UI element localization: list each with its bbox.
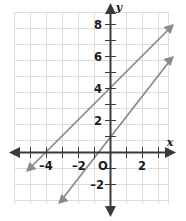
y-axis-arrow-down: [105, 206, 116, 217]
y-tick-label-6: 6: [94, 50, 102, 64]
origin-label: O: [98, 159, 108, 173]
coordinate-graph: 8 6 4 2 –2 –4 –2 2 O x y: [0, 0, 186, 221]
y-tick-label-neg2: –2: [90, 178, 104, 192]
y-tick-label-8: 8: [94, 18, 102, 32]
line-lower: [58, 56, 174, 204]
x-axis-label: x: [166, 136, 174, 149]
x-tick-label-neg4: –4: [39, 159, 53, 173]
x-tick-label-2: 2: [138, 159, 146, 173]
y-tick-label-2: 2: [94, 114, 102, 128]
y-tick-label-4: 4: [94, 82, 102, 96]
y-axis-arrow-up: [105, 3, 116, 14]
x-tick-label-neg2: –2: [72, 159, 86, 173]
graph-canvas: 8 6 4 2 –2 –4 –2 2 O x y: [0, 0, 186, 221]
grid-lines: [14, 12, 169, 204]
